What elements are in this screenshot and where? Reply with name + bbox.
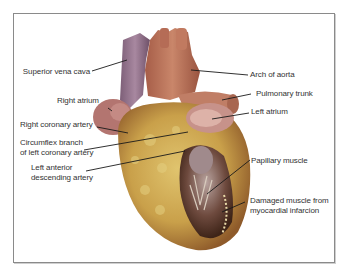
label-pulmonary-trunk: Pulmonary trunk	[256, 89, 313, 99]
label-right-atrium: Right atrium	[57, 96, 99, 106]
heart-illustration	[0, 0, 342, 272]
label-circumflex-branch: Circumflex branch of left coronary arter…	[20, 138, 93, 158]
left-atrium-shape	[186, 103, 234, 133]
label-right-coronary-artery: Right coronary artery	[20, 120, 93, 130]
label-left-atrium: Left atrium	[251, 107, 288, 117]
label-left-anterior-descending-artery: Left anterior descending artery	[31, 163, 93, 183]
label-damaged-muscle: Damaged muscle from myocardial infarcion	[250, 196, 329, 216]
label-lad-line1: Left anterior	[31, 163, 93, 173]
label-damaged-line2: myocardial infarcion	[250, 206, 329, 216]
aorta-shape	[145, 28, 200, 100]
label-circumflex-line2: of left coronary artery	[20, 148, 93, 158]
label-superior-vena-cava: Superior vena cava	[23, 67, 90, 77]
label-arch-of-aorta: Arch of aorta	[250, 70, 295, 80]
label-lad-line2: descending artery	[31, 173, 93, 183]
label-circumflex-line1: Circumflex branch	[20, 138, 93, 148]
label-damaged-line1: Damaged muscle from	[250, 196, 329, 206]
label-papillary-muscle: Papillary muscle	[251, 156, 308, 166]
